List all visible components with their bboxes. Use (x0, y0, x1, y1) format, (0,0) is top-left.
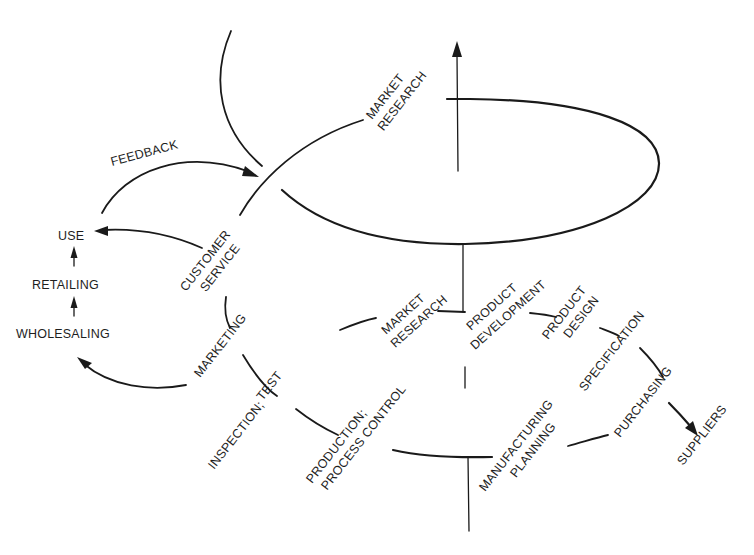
arrow-purchasing-to-suppliers (669, 403, 698, 436)
label-product-development: PRODUCT DEVELOPMENT (456, 265, 549, 353)
label-customer-service: CUSTOMER SERVICE (177, 225, 248, 304)
label-specification: SPECIFICATION (576, 308, 647, 393)
label-marketing: MARKETING (191, 311, 249, 380)
arrow-retailing-to-use (71, 246, 78, 266)
label-use: USE (58, 229, 84, 243)
arrow-customer-service-to-use (94, 226, 202, 248)
segment-manufacturing-to-purchasing (568, 435, 608, 446)
label-purchasing: PURCHASING (611, 364, 675, 440)
label-suppliers: SUPPLIERS (674, 403, 729, 468)
axis-arrow-up (452, 41, 462, 171)
label-market-research-upper: MARKET RESEARCH (362, 59, 429, 133)
arrow-feedback (102, 162, 259, 213)
segment-research-to-development (438, 311, 465, 312)
label-wholesaling: WHOLESALING (16, 327, 110, 341)
arrow-marketing-to-wholesaling (77, 357, 186, 388)
upper-loop-ellipse (282, 99, 659, 244)
segment-specification-to-purchasing (640, 348, 663, 377)
segment-development-to-design (530, 313, 556, 317)
segment-into-market-research-lower (340, 318, 376, 330)
spiral-entry-curve (220, 31, 262, 166)
arrow-wholesaling-to-retailing (71, 296, 78, 316)
quality-spiral-diagram: USE RETAILING WHOLESALING FEEDBACK (0, 0, 754, 555)
label-market-research-lower: MARKET RESEARCH (377, 281, 450, 351)
segment-production-to-manufacturing (393, 450, 492, 457)
segment-design-to-specification (600, 328, 619, 336)
segment-inspection-to-production (296, 409, 338, 435)
label-production: PRODUCTION; PROCESS CONTROL (303, 373, 408, 496)
label-retailing: RETAILING (32, 278, 99, 292)
spiral-customer-service-to-market-research (240, 120, 363, 215)
label-inspection-test: INSPECTION; TEST (202, 369, 288, 472)
axis-segment-bottom (468, 457, 469, 531)
label-manufacturing-planning: MANUFACTURING PLANNING (476, 394, 571, 503)
